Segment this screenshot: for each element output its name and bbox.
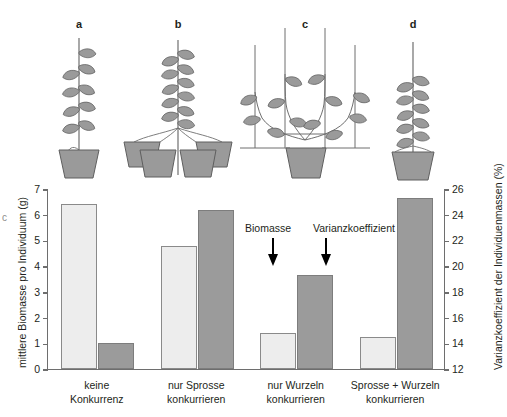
bar-series-layer xyxy=(48,190,444,369)
y2-axis-title: Varianzkoeffizient der Individuenmassen … xyxy=(492,163,504,370)
arrow-down-varianzkoeffizient xyxy=(321,238,331,266)
panel-letter-a: a xyxy=(64,18,94,30)
y2-tick xyxy=(444,241,449,242)
y2-tick-label: 16 xyxy=(452,312,464,324)
panel-c-illustration xyxy=(239,28,371,178)
y2-tick xyxy=(444,344,449,345)
panel-letter-d: d xyxy=(398,18,428,30)
annotation-arrows xyxy=(240,238,380,274)
x-category-label-line: konkurrieren xyxy=(335,392,455,406)
panel-letter-c: c xyxy=(290,18,320,30)
y2-tick xyxy=(444,266,449,267)
bar-variance xyxy=(98,343,134,369)
y-tick-label: 6 xyxy=(34,209,40,221)
y2-tick-label: 20 xyxy=(452,260,464,272)
y2-tick xyxy=(444,189,449,190)
y2-tick xyxy=(444,369,449,370)
y2-tick xyxy=(444,318,449,319)
y-tick-label: 1 xyxy=(34,337,40,349)
panel-letter-b: b xyxy=(163,18,193,30)
y-tick xyxy=(43,292,48,293)
y-tick-label: 3 xyxy=(34,286,40,298)
y-tick xyxy=(43,369,48,370)
y-tick-label: 2 xyxy=(34,312,40,324)
figure-edge-mark: c xyxy=(2,212,7,223)
y2-tick-label: 22 xyxy=(452,234,464,246)
y2-tick-label: 12 xyxy=(452,363,464,375)
y-tick-label: 4 xyxy=(34,260,40,272)
y2-tick xyxy=(444,215,449,216)
y2-tick xyxy=(444,292,449,293)
y2-tick-label: 14 xyxy=(452,337,464,349)
y-tick xyxy=(43,266,48,267)
annotation-biomasse: Biomasse xyxy=(245,222,291,234)
chart-plot-area: 01234567 1214161820222426 xyxy=(47,190,445,370)
x-category-label-line: Sprosse + Wurzeln xyxy=(335,378,455,392)
panel-d-illustration xyxy=(392,42,434,180)
panel-a-illustration xyxy=(59,38,99,178)
bar-variance xyxy=(297,275,333,369)
bar-biomass xyxy=(260,333,296,369)
y-tick xyxy=(43,344,48,345)
y-tick xyxy=(43,241,48,242)
y2-tick-label: 18 xyxy=(452,286,464,298)
y-tick-label: 5 xyxy=(34,234,40,246)
y-axis-title: mittlere Biomasse pro Individuum (g) xyxy=(16,197,28,368)
y-tick-label: 7 xyxy=(34,183,40,195)
y-tick xyxy=(43,215,48,216)
bar-variance xyxy=(198,210,234,369)
y2-tick-label: 26 xyxy=(452,183,464,195)
y-tick xyxy=(43,318,48,319)
figure-root: c xyxy=(0,0,507,417)
bar-biomass xyxy=(61,204,97,369)
y-tick-label: 0 xyxy=(34,363,40,375)
panel-b-illustration xyxy=(124,40,232,177)
annotation-varianzkoeffizient: Varianzkoeffizient xyxy=(313,222,395,234)
bar-biomass xyxy=(360,337,396,369)
bar-biomass xyxy=(161,246,197,369)
bar-variance xyxy=(397,198,433,369)
x-category-label: Sprosse + Wurzelnkonkurrieren xyxy=(335,378,455,406)
y-tick xyxy=(43,189,48,190)
y2-tick-label: 24 xyxy=(452,209,464,221)
arrow-down-biomasse xyxy=(268,238,278,266)
